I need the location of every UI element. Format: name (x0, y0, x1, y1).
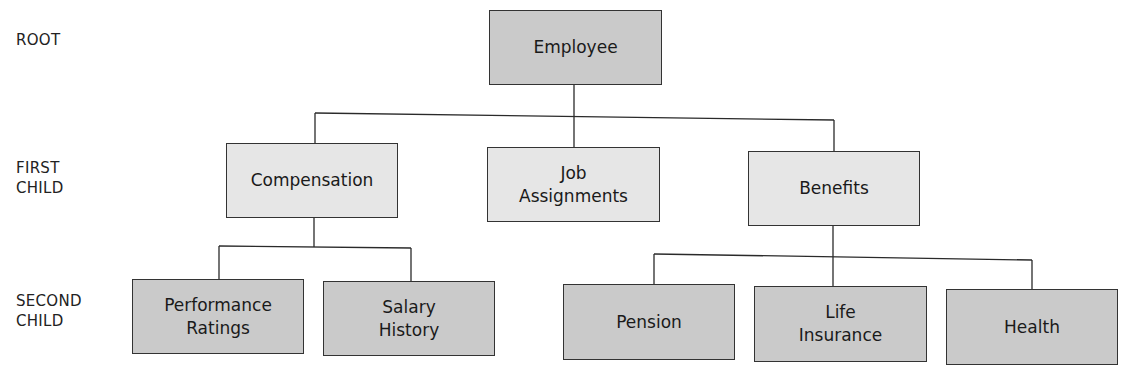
node-life-insurance: Life Insurance (754, 286, 927, 362)
level-label-text: CHILD (16, 311, 82, 331)
node-label: Assignments (519, 185, 628, 208)
node-label: Ratings (186, 317, 250, 340)
node-health: Health (946, 289, 1118, 365)
node-label: Health (1004, 316, 1060, 339)
connector-first-level-bar (315, 113, 834, 120)
node-salary-history: Salary History (323, 281, 495, 356)
node-label: History (379, 319, 439, 342)
node-pension: Pension (563, 284, 735, 360)
node-label: Pension (616, 311, 682, 334)
node-compensation: Compensation (226, 143, 398, 218)
level-label-root: ROOT (16, 30, 60, 50)
level-label-second-child: SECOND CHILD (16, 291, 82, 331)
level-label-text: FIRST (16, 158, 64, 178)
connector-benefits-bar (654, 254, 1032, 260)
node-label: Insurance (799, 324, 882, 347)
node-label: Employee (533, 36, 617, 59)
node-performance-ratings: Performance Ratings (132, 279, 304, 354)
level-label-first-child: FIRST CHILD (16, 158, 64, 198)
node-label: Benefits (799, 177, 869, 200)
node-label: Salary (382, 296, 435, 319)
node-benefits: Benefits (748, 151, 920, 226)
node-label: Performance (164, 294, 272, 317)
node-label: Compensation (251, 169, 374, 192)
node-label: Life (825, 301, 856, 324)
level-label-text: CHILD (16, 178, 64, 198)
level-label-text: ROOT (16, 31, 60, 49)
node-job-assignments: Job Assignments (487, 147, 660, 222)
level-label-text: SECOND (16, 291, 82, 311)
node-employee: Employee (489, 10, 662, 85)
node-label: Job (560, 162, 586, 185)
connector-compensation-bar (219, 246, 411, 248)
